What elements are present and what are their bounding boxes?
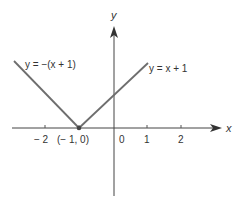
tick-label-0: 0 — [119, 134, 125, 145]
series-left-line — [14, 61, 79, 128]
tick-label-m2: − 2 — [34, 134, 49, 145]
vertex-point — [77, 126, 82, 131]
chart-figure: y x y = −(x + 1) y = x + 1 − 2 (− 1, 0) … — [0, 0, 239, 205]
chart-svg: y x y = −(x + 1) y = x + 1 − 2 (− 1, 0) … — [0, 0, 239, 205]
tick-label-2: 2 — [178, 134, 184, 145]
y-axis-label: y — [110, 9, 118, 21]
vertex-label: (− 1, 0) — [57, 134, 89, 145]
tick-label-1: 1 — [144, 134, 150, 145]
x-axis-label: x — [225, 122, 232, 134]
right-equation-label: y = x + 1 — [149, 63, 188, 74]
left-equation-label: y = −(x + 1) — [25, 59, 76, 70]
